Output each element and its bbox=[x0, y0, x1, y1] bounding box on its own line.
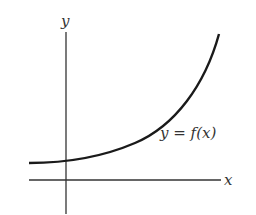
x-axis-label: x bbox=[224, 171, 233, 189]
curve-f-of-x bbox=[29, 34, 219, 163]
function-graph: y x y = f(x) bbox=[0, 0, 256, 215]
y-axis-label: y bbox=[60, 12, 70, 30]
curve-label: y = f(x) bbox=[159, 124, 216, 142]
